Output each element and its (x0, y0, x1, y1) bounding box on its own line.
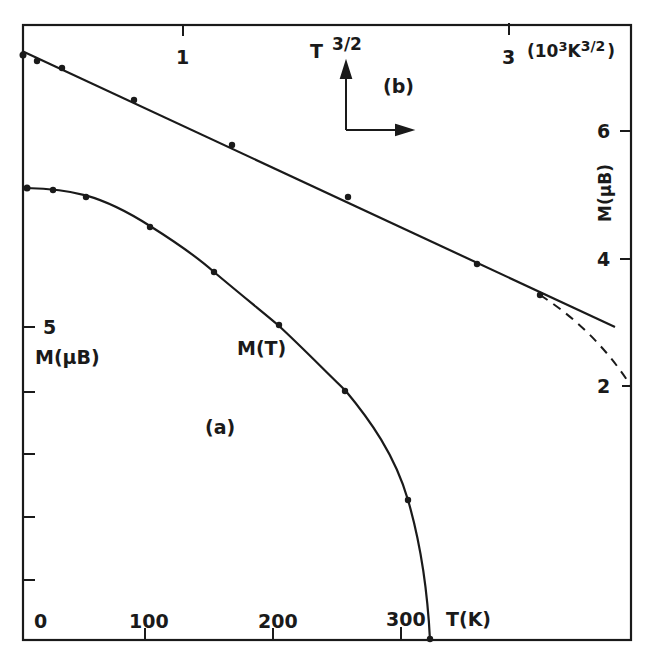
mt-curve (26, 188, 430, 640)
curve-label-mt: M(T) (237, 339, 286, 358)
right-tick-label-4: 4 (597, 250, 610, 269)
right-tick-label-6: 6 (597, 122, 610, 141)
dashed-deviation-b (540, 295, 631, 386)
bottom-tick-label-100: 100 (129, 612, 169, 631)
bottom-tick-label-0: 0 (34, 612, 47, 631)
left-axis-label: M(μB) (35, 348, 100, 367)
unit-open: (10 (527, 41, 558, 61)
top-axis-title: T 3/2 (310, 36, 362, 56)
top-axis-sup: 3/2 (332, 34, 362, 54)
mt-curve-a-visible (26, 188, 426, 640)
data-points-b (20, 52, 544, 299)
plot-frame (23, 25, 631, 640)
bottom-tick-label-200: 200 (258, 612, 298, 631)
top-tick-label-3: 3 (502, 48, 515, 67)
bottom-tick-label-300: 300 (386, 610, 426, 629)
left-tick-label-5: 5 (43, 318, 56, 337)
panel-b-label: (b) (383, 77, 414, 96)
chart-canvas (0, 0, 654, 667)
unit-k: K (567, 41, 580, 61)
axes-arrows-icon (341, 62, 412, 135)
bottom-axis-label: T(K) (446, 610, 491, 629)
right-tick-label-2: 2 (597, 377, 610, 396)
top-axis-t: T (310, 40, 323, 62)
unit-close: ) (607, 41, 615, 61)
fit-line-b (22, 51, 615, 327)
top-axis-unit: (103K3/2) (527, 36, 615, 55)
top-tick-label-1: 1 (176, 48, 189, 67)
panel-a-label: (a) (205, 418, 235, 437)
right-axis-label: M(μB) (597, 164, 614, 222)
unit-sup2: 3/2 (581, 38, 606, 54)
data-points-a (24, 185, 434, 643)
